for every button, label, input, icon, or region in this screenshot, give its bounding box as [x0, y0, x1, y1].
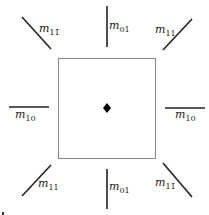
label-bottom-left: m11	[38, 177, 59, 192]
label-left: m10	[15, 108, 36, 123]
center-diamond-marker	[103, 103, 111, 113]
mirror-diagram: m11̄ m01 m11 m10 m10 m11 m01 m11̄	[0, 0, 209, 215]
label-bottom-right: m11̄	[155, 176, 176, 191]
label-top-right: m11	[155, 23, 176, 38]
label-top: m01	[109, 19, 130, 34]
label-top-left: m11̄	[39, 22, 60, 37]
label-bottom: m01	[109, 180, 130, 195]
corner-artifact	[2, 212, 4, 215]
mirror-bottom-right	[163, 163, 192, 197]
label-right: m10	[175, 108, 196, 123]
